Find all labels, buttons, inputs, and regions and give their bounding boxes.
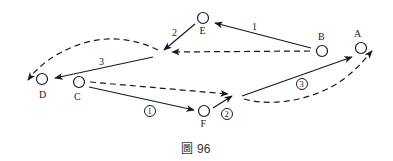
edge-junction-D-arrow — [55, 57, 153, 78]
caption-number: 96 — [197, 142, 211, 156]
dashed-B-junction-arrow — [172, 51, 310, 52]
dashed-junction-D-curve-arrow — [28, 39, 158, 80]
lower-dashed-path — [90, 51, 372, 102]
node-E-circle-icon — [198, 13, 209, 24]
edge-B-E-label: 1 — [252, 21, 257, 32]
node-E-label: E — [200, 25, 206, 36]
edge-B-E-arrow — [215, 23, 311, 48]
caption-prefix: 圖 — [181, 142, 193, 156]
svg-text:3: 3 — [300, 79, 304, 89]
node-B-label: B — [318, 31, 325, 42]
node-A-circle-icon — [356, 43, 367, 54]
dashed-junction2-A-curve-arrow — [244, 51, 372, 102]
edge-E-junction-arrow — [164, 24, 195, 50]
edge-junction-D-label: 3 — [99, 56, 104, 67]
node-B: B — [317, 31, 328, 57]
svg-text:1: 1 — [148, 106, 152, 116]
node-D-circle-icon — [37, 74, 48, 85]
node-D-label: D — [39, 89, 46, 100]
edge-C-F-arrow — [89, 87, 194, 110]
upper-solid-path: 1 2 3 — [55, 21, 311, 78]
node-A: A — [354, 28, 367, 54]
lower-solid-path: ① 1 2 3 — [89, 57, 352, 120]
node-C-label: C — [74, 91, 81, 102]
edge-C-F-label: ① 1 — [145, 106, 156, 117]
edge-junction2-A-arrow — [242, 57, 352, 96]
node-C-circle-icon — [74, 77, 85, 88]
edge-E-junction-label: 2 — [172, 27, 177, 38]
node-D: D — [37, 74, 48, 101]
path-diagram: E B A D C F 1 2 3 — [0, 0, 393, 161]
node-F-label: F — [201, 118, 207, 129]
edge-F-junction2-arrow — [213, 96, 232, 108]
node-F-circle-icon — [199, 106, 210, 117]
node-C: C — [74, 77, 85, 103]
node-F: F — [199, 106, 210, 130]
figure-caption: 圖 96 — [181, 142, 211, 156]
edge-F-junction2-label: 2 — [222, 109, 233, 120]
node-A-label: A — [354, 28, 362, 39]
svg-text:2: 2 — [225, 109, 229, 119]
edge-junction2-A-label: 3 — [297, 79, 308, 90]
node-B-circle-icon — [317, 46, 328, 57]
node-E: E — [198, 13, 209, 37]
diagram-figure: E B A D C F 1 2 3 — [0, 0, 393, 161]
